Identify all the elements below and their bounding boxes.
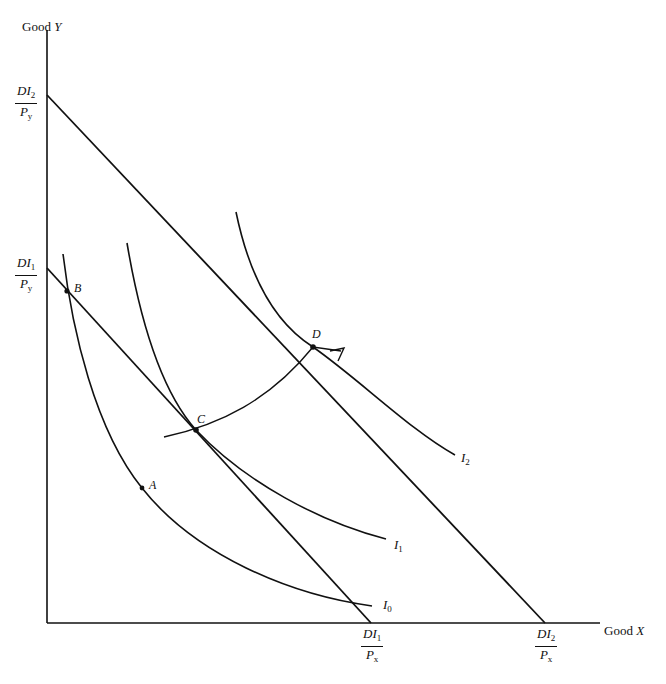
indifference-curve-i2: [236, 212, 455, 455]
curve-i0-label: I0: [383, 597, 392, 614]
point-d-label: D: [312, 327, 321, 342]
expansion-arrow-head-icon: [330, 348, 344, 361]
y-axis-label-var: Y: [54, 19, 61, 34]
x-axis-label-prefix: Good: [604, 623, 636, 638]
x-axis-label-var: X: [636, 623, 644, 638]
intercept-x1-label: DI1 Px: [361, 627, 383, 666]
diagram-canvas: [0, 0, 666, 684]
point-c-label: C: [197, 412, 205, 427]
y-axis-label: Good Y: [22, 19, 61, 35]
y-axis-label-prefix: Good: [22, 19, 54, 34]
curve-i1-label: I1: [394, 537, 403, 554]
point-a-marker: [140, 486, 145, 491]
intercept-y2-label: DI2 Py: [15, 84, 37, 123]
intercept-x2-label: DI2 Px: [535, 627, 557, 666]
point-b-label: B: [74, 281, 81, 296]
budget-line-2: [47, 95, 545, 623]
indifference-curve-i0: [63, 254, 372, 606]
point-c-marker: [193, 427, 199, 433]
curve-i2-label: I2: [461, 450, 470, 467]
intercept-y1-label: DI1 Py: [15, 256, 37, 295]
x-axis-label: Good X: [604, 623, 644, 639]
indifference-curve-i1: [127, 243, 386, 539]
budget-line-1: [47, 268, 371, 623]
income-consumption-path-main: [164, 374, 313, 437]
point-d-marker: [310, 344, 316, 350]
point-a-label: A: [149, 478, 156, 493]
point-b-marker: [64, 288, 69, 293]
